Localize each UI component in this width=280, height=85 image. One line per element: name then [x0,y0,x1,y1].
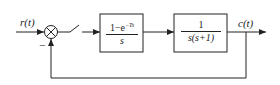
zoh-numerator: 1−e [110,22,125,33]
input-label: r(t) [20,17,35,28]
zoh-exponent: −Ts [125,22,134,28]
plant-transfer-function: 1 s(s+1) [181,19,221,44]
zoh-denominator: s [106,34,138,47]
output-label: c(t) [238,18,253,29]
plant-numerator: 1 [181,19,221,31]
feedback-sign: − [39,40,45,51]
plant-denominator: s(s+1) [181,31,221,44]
summing-junction-icon [45,26,58,39]
sampler-switch-icon [70,25,79,32]
zoh-transfer-function: 1−e−Ts s [106,19,138,47]
